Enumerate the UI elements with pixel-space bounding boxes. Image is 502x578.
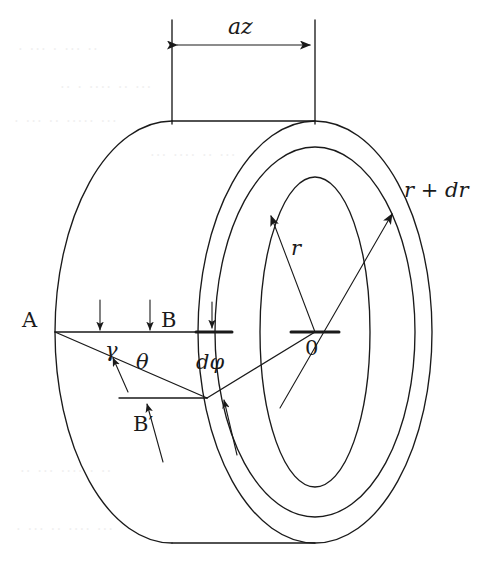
theta-label: θ	[136, 352, 149, 373]
dphi-pointer-arrow	[224, 400, 237, 455]
segment-a-to-b-prime	[55, 332, 207, 398]
bleed-line-3: ··· ···· ·· ···	[150, 146, 237, 164]
bleed-line-5: · ··· ·· ···· ···	[16, 520, 114, 538]
point-b-prime-label: B′	[133, 414, 153, 435]
radius-r-leader	[271, 216, 315, 332]
bleed-line-4: ·· ··· ···· · ··	[20, 462, 112, 480]
bleed-line-1: ·· · ···· ·· ···	[60, 78, 152, 96]
bleed-line-2: · ··· ·· ····· ···	[14, 112, 118, 130]
gamma-label: γ	[105, 340, 118, 361]
az-label: az	[228, 16, 253, 38]
point-a-label: A	[22, 310, 37, 331]
dphi-label: dφ	[196, 352, 224, 373]
radius-r-plus-dr-label: r + dr	[404, 180, 468, 201]
bleed-line-0: · ··· · ··· ··	[18, 40, 99, 58]
center-label: 0	[305, 338, 318, 359]
torsion-diagram-figure: az r r + dr 0 A B B′ γ θ dφ · ··· · ··· …	[0, 0, 502, 578]
point-b-label: B	[161, 310, 176, 331]
radius-r-label: r	[291, 238, 301, 259]
